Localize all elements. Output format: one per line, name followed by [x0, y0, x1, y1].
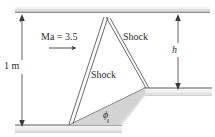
shock-upper-label: Shock [123, 32, 148, 42]
top-wall [15, 6, 210, 13]
mach-number-label: Ma = 3.5 [41, 32, 77, 42]
ramp-angle-label: ϕ [103, 110, 108, 120]
supersonic-ramp-shock-diagram: Ma = 3.5 1 m h Shock Shock ϕ [0, 0, 215, 137]
shock-lower-label: Shock [91, 70, 116, 80]
inlet-height-label: 1 m [4, 61, 19, 71]
exit-height-label: h [172, 45, 177, 55]
bottom-wall [15, 125, 122, 133]
